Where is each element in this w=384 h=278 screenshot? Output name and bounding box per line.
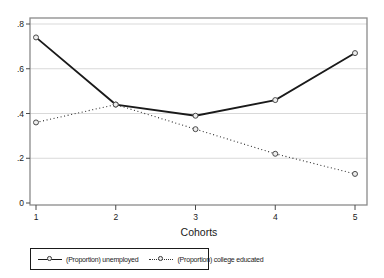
y-tick-label: .8 [17, 19, 24, 29]
series-line-0 [36, 37, 355, 115]
data-point-series-1 [193, 127, 198, 132]
x-axis-title: Cohorts [181, 226, 218, 238]
data-point-series-1 [113, 102, 118, 107]
legend-label-unemployed: (Proportion) unemployed [66, 256, 138, 263]
y-tick-label: .6 [17, 64, 24, 74]
x-tick-label: 1 [34, 212, 39, 222]
x-tick-label: 2 [113, 212, 118, 222]
data-point-series-1 [353, 171, 358, 176]
x-tick-label: 3 [193, 212, 198, 222]
dotted-line-circle-marker-icon [149, 256, 173, 263]
legend-entry-college-educated: (Proportion) college educated [149, 256, 263, 263]
solid-line-circle-marker-icon [38, 256, 62, 263]
x-tick-label: 5 [353, 212, 358, 222]
data-point-series-0 [34, 35, 39, 40]
legend-label-college-educated: (Proportion) college educated [177, 256, 263, 263]
data-point-series-0 [353, 51, 358, 56]
data-point-series-1 [34, 120, 39, 125]
stata-line-chart-figure: 0.2.4.6.812345Cohorts (Proportion) unemp… [0, 0, 384, 278]
data-point-series-0 [273, 98, 278, 103]
y-tick-label: .2 [17, 153, 24, 163]
y-tick-label: .4 [17, 109, 24, 119]
y-tick-label: 0 [19, 198, 24, 208]
legend: (Proportion) unemployed (Proportion) col… [30, 248, 209, 270]
legend-entry-unemployed: (Proportion) unemployed [38, 256, 138, 263]
data-point-series-0 [193, 113, 198, 118]
data-point-series-1 [273, 151, 278, 156]
x-tick-label: 4 [273, 212, 278, 222]
plot-frame [30, 18, 367, 205]
chart-plot-area: 0.2.4.6.812345Cohorts [0, 0, 384, 278]
